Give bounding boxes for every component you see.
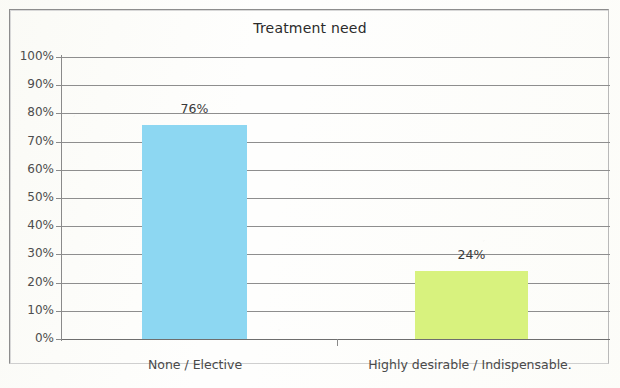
y-axis-tick: [56, 198, 62, 199]
y-axis-tick-label: 40%: [4, 218, 54, 232]
y-axis-tick-label: 90%: [4, 77, 54, 91]
chart-title: Treatment need: [0, 20, 620, 36]
y-axis-tick-label: 70%: [4, 134, 54, 148]
y-axis-tick: [56, 170, 62, 171]
y-axis-tick-label: 30%: [4, 246, 54, 260]
bar-value-label: 24%: [375, 247, 568, 262]
bar-2[interactable]: [415, 271, 528, 339]
gridline: [62, 57, 610, 58]
y-axis-tick-label: 80%: [4, 105, 54, 119]
chart-screenshot: Treatment need 100%90%80%70%60%50%40%30%…: [0, 0, 620, 388]
y-axis-tick: [56, 85, 62, 86]
y-axis-tick-label: 20%: [4, 275, 54, 289]
x-axis-category-label: Highly desirable / Indispensable.: [320, 357, 620, 372]
y-axis-tick: [56, 57, 62, 58]
y-axis-tick: [56, 311, 62, 312]
bar-value-label: 76%: [102, 101, 287, 116]
gridline: [62, 85, 610, 86]
y-axis-tick: [56, 254, 62, 255]
y-axis-tick-label: 0%: [4, 331, 54, 345]
y-axis-tick-label: 100%: [4, 49, 54, 63]
y-axis-tick: [56, 142, 62, 143]
y-axis-tick-label: 50%: [4, 190, 54, 204]
y-axis-tick: [56, 113, 62, 114]
y-axis-tick-label: 60%: [4, 162, 54, 176]
x-axis-category-label: None / Elective: [45, 357, 345, 372]
y-axis-tick: [56, 283, 62, 284]
y-axis-tick: [56, 226, 62, 227]
y-axis-tick-label: 10%: [4, 303, 54, 317]
category-divider-tick: [337, 339, 338, 346]
bar-1[interactable]: [142, 125, 247, 339]
y-axis-tick: [56, 339, 62, 340]
gridline: [62, 339, 610, 340]
